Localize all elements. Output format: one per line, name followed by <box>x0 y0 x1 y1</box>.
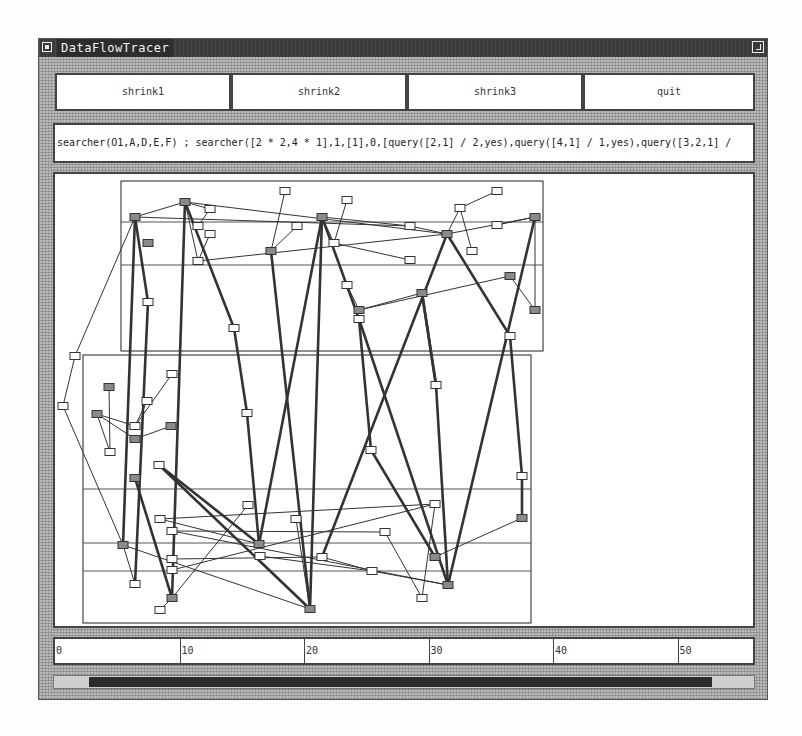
graph-node[interactable] <box>492 188 502 195</box>
graph-node[interactable] <box>155 516 165 523</box>
graph-node[interactable] <box>505 273 515 280</box>
dataflow-edge-major <box>510 336 522 476</box>
graph-node[interactable] <box>130 436 140 443</box>
dataflow-edge-major <box>422 293 436 385</box>
graph-node[interactable] <box>292 223 302 230</box>
graph-node[interactable] <box>380 529 390 536</box>
query-trace-text[interactable]: searcher(O1,A,D,E,F) ; searcher([2 * 2,4… <box>53 123 755 163</box>
graph-node[interactable] <box>405 257 415 264</box>
graph-node[interactable] <box>443 582 453 589</box>
graph-node[interactable] <box>167 371 177 378</box>
graph-node[interactable] <box>430 501 440 508</box>
graph-node[interactable] <box>530 307 540 314</box>
dataflow-edge-major <box>448 217 535 585</box>
graph-node[interactable] <box>70 353 80 360</box>
graph-node[interactable] <box>455 205 465 212</box>
graph-node[interactable] <box>354 316 364 323</box>
graph-node[interactable] <box>193 258 203 265</box>
dataflow-edge-major <box>322 217 359 319</box>
graph-node[interactable] <box>130 423 140 430</box>
graph-node[interactable] <box>305 606 315 613</box>
graph-node[interactable] <box>130 214 140 221</box>
dataflow-edge <box>322 557 372 571</box>
graph-node[interactable] <box>366 447 376 454</box>
window-title: DataFlowTracer <box>57 39 173 57</box>
graph-node[interactable] <box>105 449 115 456</box>
dataflow-edge <box>97 414 110 452</box>
graph-node[interactable] <box>505 333 515 340</box>
graph-node[interactable] <box>143 299 153 306</box>
dataflow-graph-canvas[interactable] <box>53 172 755 628</box>
scrollbar-thumb[interactable] <box>89 677 712 687</box>
graph-node[interactable] <box>430 554 440 561</box>
graph-node[interactable] <box>354 307 364 314</box>
window-menu-icon[interactable] <box>42 42 52 52</box>
graph-node[interactable] <box>143 240 153 247</box>
graph-node[interactable] <box>342 282 352 289</box>
dataflow-graph <box>55 174 753 626</box>
graph-node[interactable] <box>530 214 540 221</box>
graph-node[interactable] <box>492 222 502 229</box>
graph-node[interactable] <box>154 462 164 469</box>
graph-node[interactable] <box>205 231 215 238</box>
graph-node[interactable] <box>142 398 152 405</box>
graph-node[interactable] <box>442 231 452 238</box>
dataflow-edge <box>359 276 510 310</box>
dataflow-edge <box>460 191 497 208</box>
graph-node[interactable] <box>342 197 352 204</box>
graph-node[interactable] <box>417 595 427 602</box>
graph-node[interactable] <box>266 248 276 255</box>
graph-node[interactable] <box>280 188 290 195</box>
graph-node[interactable] <box>417 290 427 297</box>
graph-node[interactable] <box>166 423 176 430</box>
dataflow-edge <box>385 532 422 598</box>
shrink3-button[interactable]: shrink3 <box>407 73 583 111</box>
graph-node[interactable] <box>367 568 377 575</box>
graph-node[interactable] <box>130 475 140 482</box>
dataflow-edge <box>435 518 522 557</box>
ruler-tick-40: 40 <box>553 639 567 663</box>
dataflow-edge <box>123 545 310 609</box>
ruler-tick-10: 10 <box>180 639 194 663</box>
shrink1-button[interactable]: shrink1 <box>55 73 231 111</box>
graph-node[interactable] <box>58 403 68 410</box>
graph-node[interactable] <box>291 516 301 523</box>
graph-node[interactable] <box>517 515 527 522</box>
graph-node[interactable] <box>317 554 327 561</box>
dataflow-edge-major <box>135 217 148 302</box>
graph-node[interactable] <box>167 567 177 574</box>
graph-node[interactable] <box>205 206 215 213</box>
graph-node[interactable] <box>92 411 102 418</box>
graph-node[interactable] <box>431 382 441 389</box>
graph-node[interactable] <box>180 199 190 206</box>
dataflow-edge-major <box>135 478 172 598</box>
horizontal-scrollbar[interactable] <box>53 675 755 689</box>
graph-node[interactable] <box>329 240 339 247</box>
quit-button[interactable]: quit <box>583 73 755 111</box>
graph-node[interactable] <box>405 223 415 230</box>
graph-node[interactable] <box>104 384 114 391</box>
graph-node[interactable] <box>167 556 177 563</box>
shrink2-button[interactable]: shrink2 <box>231 73 407 111</box>
graph-node[interactable] <box>517 473 527 480</box>
graph-node[interactable] <box>193 223 203 230</box>
dataflow-edge <box>63 406 123 545</box>
graph-node[interactable] <box>317 214 327 221</box>
dataflow-edge-major <box>371 450 435 557</box>
graph-node[interactable] <box>130 581 140 588</box>
graph-node[interactable] <box>242 410 252 417</box>
graph-node[interactable] <box>255 553 265 560</box>
graph-node[interactable] <box>243 502 253 509</box>
graph-node[interactable] <box>467 248 477 255</box>
title-bar[interactable]: DataFlowTracer <box>39 39 767 57</box>
graph-node[interactable] <box>118 542 128 549</box>
graph-node[interactable] <box>254 541 264 548</box>
graph-node[interactable] <box>229 325 239 332</box>
graph-node[interactable] <box>167 528 177 535</box>
graph-node[interactable] <box>155 607 165 614</box>
dataflow-edge-major <box>247 413 259 544</box>
graph-node[interactable] <box>167 595 177 602</box>
dataflow-edge <box>372 571 448 585</box>
dataflow-edge <box>359 293 422 310</box>
window-maximize-icon[interactable] <box>752 41 764 53</box>
